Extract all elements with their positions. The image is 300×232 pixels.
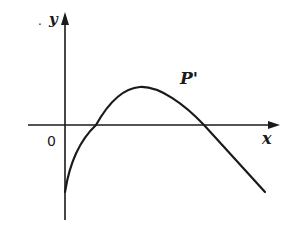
x-axis-label: x [261,129,272,148]
curve-p-prime [65,87,265,192]
x-axis-arrow-icon [268,121,280,129]
curve-label: P' [179,68,198,88]
y-label-dot: . [38,14,42,28]
y-axis-label: y [48,10,59,28]
origin-label: 0 [47,133,56,149]
graph-canvas: . y 0 x P' [0,0,300,232]
y-axis-arrow-icon [61,12,69,25]
